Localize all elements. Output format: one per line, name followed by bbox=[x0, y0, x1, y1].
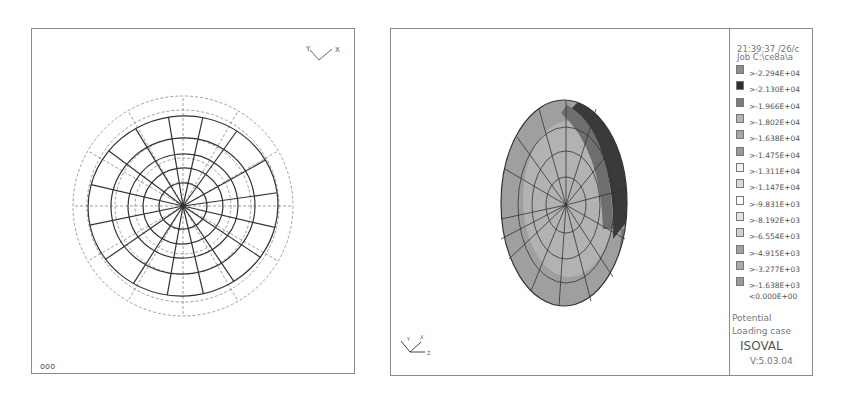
program-name: ISOVAL bbox=[740, 339, 783, 353]
legend-swatch bbox=[736, 65, 744, 74]
legend-swatch bbox=[736, 130, 744, 139]
legend-swatch bbox=[736, 179, 744, 188]
legend-swatch bbox=[736, 245, 744, 254]
legend-swatch bbox=[736, 114, 744, 123]
quantity-label: Potential bbox=[732, 313, 771, 323]
legend-panel: 21:39:37 /26/c Job C:\ce8a\a >-2.294E+04… bbox=[729, 29, 814, 375]
axis-triad-icon bbox=[401, 341, 425, 352]
legend-swatch bbox=[736, 277, 744, 286]
program-version: V:5.03.04 bbox=[750, 356, 793, 366]
legend-swatch bbox=[736, 212, 744, 221]
axis-x-label: X bbox=[335, 46, 340, 54]
legend-swatch bbox=[736, 228, 744, 237]
legend-swatch bbox=[736, 98, 744, 107]
legend-job: Job C:\ce8a\a bbox=[737, 52, 793, 62]
axis-z-label: Z bbox=[427, 350, 431, 356]
axis-triad-icon bbox=[310, 49, 332, 60]
axis-y-label: Y bbox=[407, 336, 410, 342]
axis-y-label: Y bbox=[306, 45, 310, 53]
wireframe-mesh bbox=[32, 29, 356, 375]
legend-swatch bbox=[736, 196, 744, 205]
legend-swatch bbox=[736, 81, 744, 90]
right-viewport: Y X Z 21:39:37 /26/c Job C:\ce8a\a >-2.2… bbox=[390, 28, 813, 376]
axis-x-label: X bbox=[420, 334, 424, 340]
corner-text: ooo bbox=[40, 362, 55, 371]
legend-swatch bbox=[736, 163, 744, 172]
legend-below-min: <0.000E+00 bbox=[749, 292, 797, 301]
left-viewport: Y X ooo bbox=[31, 28, 355, 374]
contour-plot bbox=[391, 29, 729, 375]
legend-swatch bbox=[736, 147, 744, 156]
legend-swatch bbox=[736, 261, 744, 270]
loading-case-label: Loading case bbox=[732, 326, 791, 336]
